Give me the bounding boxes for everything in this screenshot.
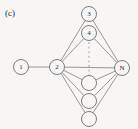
edge-e1-nN: [96, 71, 115, 80]
node-circle-e2: [82, 94, 97, 109]
graph-node-4: 4: [82, 26, 97, 41]
nodes-group: 1234N: [14, 7, 130, 127]
node-label-n4: 4: [87, 29, 91, 37]
edge-n2-e2: [62, 72, 84, 95]
node-label-n2: 2: [55, 63, 59, 71]
node-circle-e3: [82, 112, 97, 127]
graph-node-3: 3: [82, 7, 97, 22]
graph-node-N: N: [115, 61, 130, 76]
edge-e2-nN: [94, 73, 116, 95]
edge-n4-nN: [94, 38, 117, 62]
node-label-n3: 3: [87, 10, 91, 18]
graph-node-unlabeled-e1: [82, 76, 97, 91]
graph-diagram: 1234N (c): [0, 0, 138, 129]
node-label-nN: N: [119, 64, 124, 72]
graph-node-unlabeled-e2: [82, 94, 97, 109]
panel-label: (c): [5, 8, 15, 18]
graph-node-2: 2: [50, 60, 65, 75]
graph-node-unlabeled-e3: [82, 112, 97, 127]
edges-group: [29, 20, 119, 112]
graph-node-1: 1: [14, 60, 29, 75]
node-circle-e1: [82, 76, 97, 91]
edge-n2-nN: [65, 67, 115, 68]
edge-n2-e1: [64, 70, 83, 79]
figure-panel-c: 1234N (c): [0, 0, 138, 129]
node-label-n1: 1: [19, 63, 23, 71]
edge-n2-n4: [62, 38, 84, 61]
